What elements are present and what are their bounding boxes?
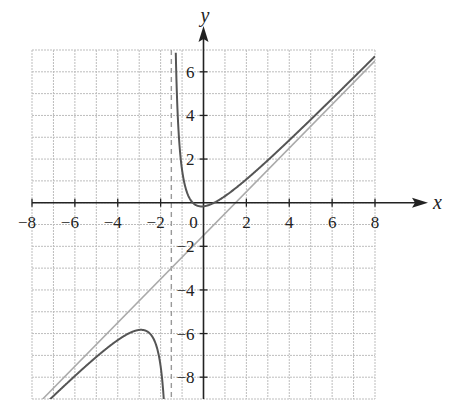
- x-axis-label: x: [432, 191, 442, 213]
- x-tick-label: 2: [242, 213, 251, 232]
- y-tick-label: −8: [176, 368, 194, 387]
- x-tick-label: −2: [147, 213, 165, 232]
- function-graph: x y −8−6−4−202468−8−6−4−2246: [0, 0, 461, 417]
- y-tick-label: −4: [176, 281, 195, 300]
- x-tick-label: 4: [285, 213, 294, 232]
- curve-branch: [176, 53, 375, 207]
- curve-branch: [46, 330, 164, 403]
- x-tick-label: −6: [61, 213, 79, 232]
- x-tick-label: −8: [18, 213, 36, 232]
- y-tick-label: −2: [176, 237, 194, 256]
- x-tick-label: 0: [189, 213, 198, 232]
- y-tick-label: 2: [186, 150, 195, 169]
- y-tick-label: −6: [176, 325, 194, 344]
- x-tick-label: 6: [328, 213, 337, 232]
- y-tick-label: 6: [186, 63, 195, 82]
- x-tick-label: 8: [371, 213, 380, 232]
- slant-asymptote: [43, 61, 375, 399]
- x-tick-label: −4: [104, 213, 123, 232]
- y-axis-label: y: [199, 4, 210, 27]
- y-tick-label: 4: [186, 106, 195, 125]
